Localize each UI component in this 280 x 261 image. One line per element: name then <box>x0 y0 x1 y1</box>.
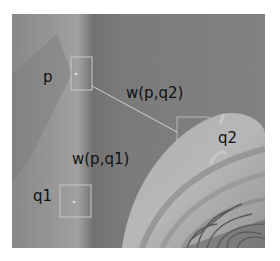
weight-label-p-q2: w(p,q2) <box>126 86 183 101</box>
patch-label-q1: q1 <box>33 189 52 204</box>
weight-label-p-q1: w(p,q1) <box>72 152 129 167</box>
annotated-figure: p q1 q2 w(p,q2) w(p,q1) <box>12 14 265 248</box>
patch-label-p: p <box>43 70 53 85</box>
patch-label-q2: q2 <box>218 131 237 146</box>
patch-center-q1 <box>73 201 76 204</box>
patch-center-p <box>75 73 78 76</box>
